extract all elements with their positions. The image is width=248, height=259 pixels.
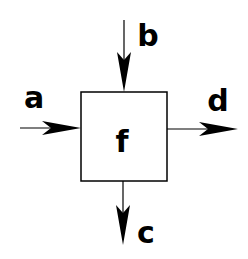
input-arrow-a xyxy=(20,121,81,135)
output-arrow-d xyxy=(167,122,238,136)
output-arrow-c xyxy=(116,181,130,245)
input-label-a: a xyxy=(24,80,44,115)
input-arrow-b xyxy=(117,20,131,92)
input-label-b: b xyxy=(137,18,158,53)
output-label-d: d xyxy=(207,83,228,118)
block-label: f xyxy=(115,124,129,159)
output-label-c: c xyxy=(137,215,155,250)
function-block-diagram: f a b d c xyxy=(0,0,248,259)
